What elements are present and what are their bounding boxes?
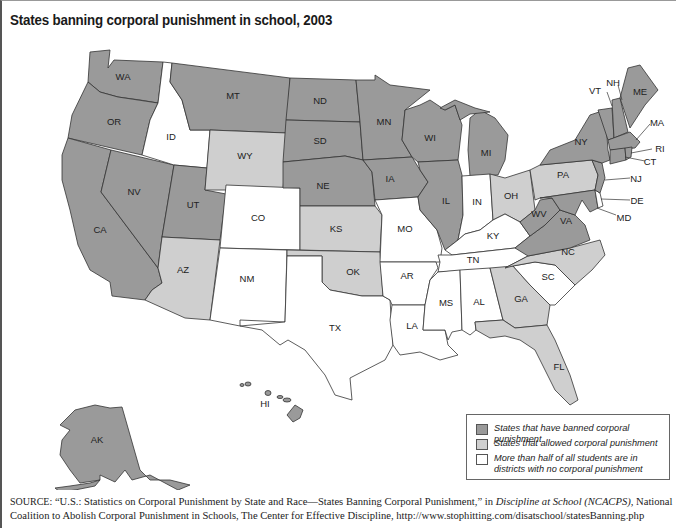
svg-text:CA: CA xyxy=(93,224,107,235)
source-publication: Discipline at School (NCACPS), xyxy=(496,496,634,507)
svg-text:TX: TX xyxy=(329,322,342,333)
svg-text:VA: VA xyxy=(560,215,573,226)
svg-text:WA: WA xyxy=(116,71,132,82)
state-mi xyxy=(468,110,508,176)
source-citation: SOURCE: “U.S.: Statistics on Corporal Pu… xyxy=(10,495,674,523)
legend-swatch-banned xyxy=(476,424,488,435)
svg-text:SD: SD xyxy=(313,135,326,146)
svg-text:VT: VT xyxy=(589,85,601,96)
svg-text:NC: NC xyxy=(561,246,575,257)
svg-text:WY: WY xyxy=(237,150,253,161)
legend-label: States that allowed corporal punishment xyxy=(494,438,664,449)
legend-item-allowed: States that allowed corporal punishment xyxy=(476,438,664,450)
svg-text:WV: WV xyxy=(531,208,547,219)
svg-text:OH: OH xyxy=(504,190,518,201)
state-wi xyxy=(402,100,462,162)
svg-text:IA: IA xyxy=(386,173,396,184)
svg-text:ID: ID xyxy=(166,131,176,142)
svg-text:IL: IL xyxy=(442,195,450,206)
svg-text:AL: AL xyxy=(473,296,485,307)
svg-text:FL: FL xyxy=(553,361,564,372)
state-nm xyxy=(210,248,287,326)
svg-text:AR: AR xyxy=(400,270,413,281)
svg-text:HI: HI xyxy=(260,398,270,409)
map-legend: States that have banned corporal punishm… xyxy=(466,414,670,480)
svg-text:AK: AK xyxy=(91,434,104,445)
state-hi xyxy=(240,382,303,422)
svg-text:WI: WI xyxy=(424,132,436,143)
svg-text:NH: NH xyxy=(606,77,620,88)
svg-text:MN: MN xyxy=(377,116,392,127)
svg-text:MA: MA xyxy=(650,117,665,128)
svg-text:IN: IN xyxy=(472,196,482,207)
svg-text:GA: GA xyxy=(514,293,528,304)
state-ct xyxy=(610,148,626,164)
svg-text:DE: DE xyxy=(630,195,643,206)
legend-label: More than half of all students are in di… xyxy=(494,453,664,475)
source-text-1: “U.S.: Statistics on Corporal Punishment… xyxy=(52,496,495,507)
svg-text:NM: NM xyxy=(240,273,255,284)
svg-text:RI: RI xyxy=(655,143,665,154)
legend-swatch-majority-no-cp xyxy=(476,454,488,465)
svg-text:NJ: NJ xyxy=(630,173,642,184)
source-prefix: SOURCE: xyxy=(10,496,52,507)
svg-text:MI: MI xyxy=(481,147,492,158)
svg-text:CT: CT xyxy=(644,156,657,167)
state-ak xyxy=(60,405,190,490)
svg-text:KY: KY xyxy=(487,230,500,241)
svg-text:NV: NV xyxy=(127,186,141,197)
svg-text:CO: CO xyxy=(251,212,265,223)
state-ak-aleutians xyxy=(55,480,100,490)
svg-text:LA: LA xyxy=(406,320,418,331)
svg-text:SC: SC xyxy=(541,271,554,282)
legend-item-majority-no-cp: More than half of all students are in di… xyxy=(476,453,664,475)
svg-text:MT: MT xyxy=(226,90,240,101)
svg-text:AZ: AZ xyxy=(177,264,189,275)
svg-text:OK: OK xyxy=(346,266,360,277)
svg-text:TN: TN xyxy=(467,254,480,265)
svg-text:MO: MO xyxy=(397,223,412,234)
svg-text:NE: NE xyxy=(316,180,329,191)
svg-text:NY: NY xyxy=(574,136,588,147)
svg-text:MD: MD xyxy=(617,212,632,223)
svg-text:PA: PA xyxy=(557,169,570,180)
svg-text:OR: OR xyxy=(107,116,121,127)
svg-text:KS: KS xyxy=(330,223,343,234)
svg-text:ND: ND xyxy=(313,95,327,106)
legend-swatch-allowed xyxy=(476,439,488,450)
svg-text:ME: ME xyxy=(633,86,647,97)
svg-text:MS: MS xyxy=(439,297,453,308)
svg-text:UT: UT xyxy=(187,199,200,210)
